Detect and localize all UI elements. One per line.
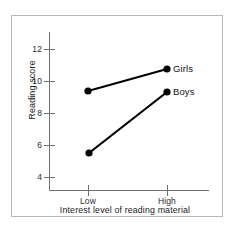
chart-figure: 12 10 8 6 4 Low High Reading score Inter… <box>0 0 234 234</box>
data-point-girls-low <box>84 87 91 94</box>
data-point-boys-low <box>85 149 92 156</box>
series-label-boys: Boys <box>173 86 195 97</box>
data-point-girls-high <box>163 65 170 72</box>
y-axis-label: Reading score <box>27 45 37 135</box>
series-line-boys <box>89 92 167 153</box>
x-axis-label: Interest level of reading material <box>30 205 220 215</box>
y-tick-label-6: 6 <box>22 140 42 150</box>
series-line-girls <box>88 69 167 91</box>
data-point-boys-high <box>163 88 170 95</box>
y-tick-label-4: 4 <box>22 172 42 182</box>
series-label-girls: Girls <box>173 63 193 74</box>
